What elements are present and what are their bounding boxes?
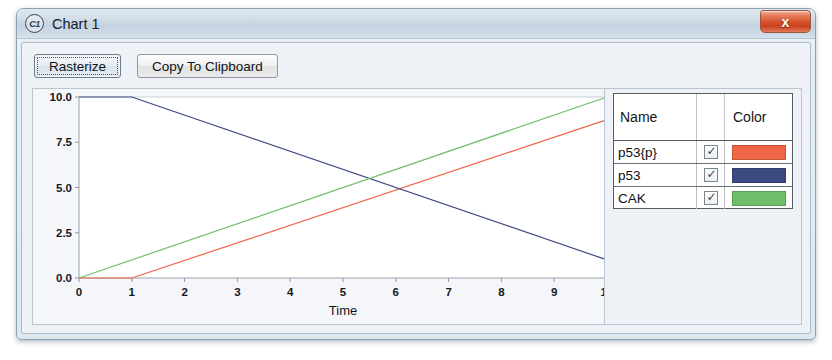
check-mark-icon: ✓ xyxy=(707,144,717,158)
x-tick-label: 0 xyxy=(76,286,82,298)
c1-circle-icon: C1 xyxy=(25,14,44,33)
legend-color-cell[interactable] xyxy=(724,141,792,163)
legend-visibility-cell[interactable]: ✓ xyxy=(696,141,724,163)
y-tick-label: 2.5 xyxy=(56,227,73,239)
copy-to-clipboard-button[interactable]: Copy To Clipboard xyxy=(137,54,278,78)
legend-header-check xyxy=(696,94,724,140)
y-tick-label: 10.0 xyxy=(50,91,72,103)
legend-table: Name Color p53{p}✓p53✓CAK✓ xyxy=(613,93,793,209)
line-chart: 0.02.55.07.510.0012345678910Time xyxy=(33,89,619,322)
plot-panel: 0.02.55.07.510.0012345678910Time xyxy=(32,88,620,325)
legend-header-row: Name Color xyxy=(614,94,792,141)
checkbox-checked-icon[interactable]: ✓ xyxy=(704,145,718,159)
close-icon: x xyxy=(782,15,790,29)
y-tick-label: 0.0 xyxy=(56,272,72,284)
legend-row[interactable]: p53{p}✓ xyxy=(614,141,792,164)
y-tick-label: 7.5 xyxy=(56,136,73,148)
y-tick-label: 5.0 xyxy=(56,182,72,194)
x-tick-label: 4 xyxy=(287,286,294,298)
checkbox-checked-icon[interactable]: ✓ xyxy=(704,168,718,182)
toolbar: Rasterize Copy To Clipboard xyxy=(34,54,278,78)
legend-visibility-cell[interactable]: ✓ xyxy=(696,164,724,186)
legend-row[interactable]: p53✓ xyxy=(614,164,792,187)
check-mark-icon: ✓ xyxy=(707,190,717,204)
x-tick-label: 8 xyxy=(498,286,505,298)
legend-color-cell[interactable] xyxy=(724,187,792,209)
legend-visibility-cell[interactable]: ✓ xyxy=(696,187,724,209)
x-tick-label: 7 xyxy=(445,286,451,298)
chart-window: C1 Chart 1 x Rasterize Copy To Clipboard… xyxy=(16,8,816,340)
color-swatch[interactable] xyxy=(732,145,786,160)
window-title: Chart 1 xyxy=(52,16,100,32)
rasterize-button[interactable]: Rasterize xyxy=(34,54,121,78)
client-area: Rasterize Copy To Clipboard 0.02.55.07.5… xyxy=(21,42,811,334)
legend-row-list: p53{p}✓p53✓CAK✓ xyxy=(614,141,792,209)
x-tick-label: 2 xyxy=(181,286,187,298)
legend-row[interactable]: CAK✓ xyxy=(614,187,792,209)
x-tick-label: 9 xyxy=(551,286,557,298)
x-axis-title: Time xyxy=(329,303,357,318)
color-swatch[interactable] xyxy=(732,191,786,206)
legend-color-cell[interactable] xyxy=(724,164,792,186)
check-mark-icon: ✓ xyxy=(707,167,717,181)
legend-header-color: Color xyxy=(724,94,792,140)
x-tick-label: 3 xyxy=(234,286,240,298)
x-tick-label: 5 xyxy=(340,286,347,298)
legend-panel: Name Color p53{p}✓p53✓CAK✓ xyxy=(604,88,802,325)
x-tick-label: 1 xyxy=(129,286,136,298)
x-tick-label: 6 xyxy=(393,286,399,298)
close-button[interactable]: x xyxy=(760,10,811,33)
legend-series-name: p53 xyxy=(614,164,696,186)
legend-series-name: CAK xyxy=(614,187,696,209)
title-bar: C1 Chart 1 x xyxy=(17,9,815,39)
legend-header-name: Name xyxy=(614,94,696,140)
chart-content: 0.02.55.07.510.0012345678910Time Name Co… xyxy=(32,88,802,325)
legend-series-name: p53{p} xyxy=(614,141,696,163)
checkbox-checked-icon[interactable]: ✓ xyxy=(704,191,718,205)
color-swatch[interactable] xyxy=(732,168,786,183)
